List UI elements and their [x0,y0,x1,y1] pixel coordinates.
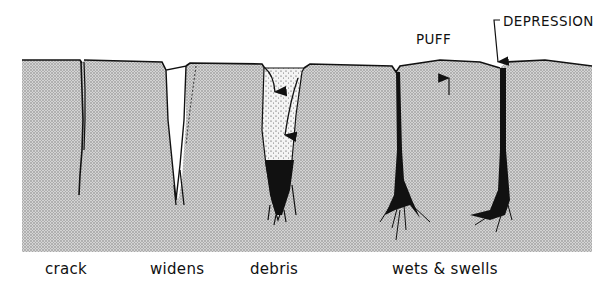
crack-label: crack [45,260,87,278]
widens-label: widens [150,260,204,278]
depression-arrow-icon [494,20,500,62]
debris-label: debris [250,260,298,278]
wets-swells-label: wets & swells [392,260,498,278]
depression-label: DEPRESSION [503,13,594,29]
soil-body [22,60,592,252]
puff-label: PUFF [416,31,451,47]
soil-crack-diagram [0,0,611,283]
